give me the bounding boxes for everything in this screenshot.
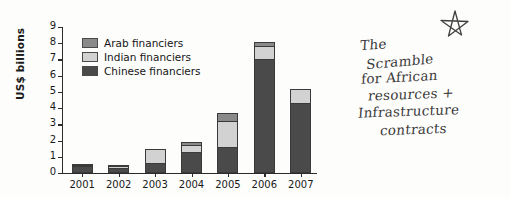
y-tick-mark — [58, 27, 62, 28]
y-axis-label: US$ billions — [14, 0, 26, 100]
legend-item[interactable]: Indian financiers — [82, 50, 201, 63]
chart-legend: Arab financiersIndian financiersChinese … — [82, 36, 201, 78]
y-tick-label: 6 — [50, 69, 56, 81]
x-tick-mark — [228, 173, 229, 177]
legend-swatch-icon — [82, 38, 98, 48]
x-tick-label: 2005 — [208, 179, 248, 190]
bar-segment — [72, 166, 93, 173]
x-tick-mark — [264, 173, 265, 177]
bar-segment — [254, 46, 275, 61]
legend-label: Chinese financiers — [104, 65, 201, 77]
y-tick-mark — [58, 59, 62, 60]
bar-segment — [290, 89, 311, 104]
legend-swatch-icon — [82, 52, 98, 62]
bar-segment — [145, 149, 166, 164]
legend-swatch-icon — [82, 66, 98, 76]
x-tick-label: 2002 — [99, 179, 139, 190]
bar-segment — [181, 152, 202, 173]
y-axis-line — [62, 27, 63, 173]
y-tick-mark — [58, 76, 62, 77]
bar-segment — [290, 103, 311, 173]
y-tick-mark — [58, 92, 62, 93]
bar-2005[interactable] — [217, 113, 238, 173]
bar-2002[interactable] — [108, 165, 129, 173]
y-tick-mark — [58, 108, 62, 109]
bar-2004[interactable] — [181, 142, 202, 173]
x-tick-label: 2007 — [281, 179, 321, 190]
y-tick-label: 7 — [50, 52, 56, 64]
legend-item[interactable]: Chinese financiers — [82, 64, 201, 77]
bar-segment — [217, 121, 238, 148]
x-tick-mark — [82, 173, 83, 177]
y-tick-mark — [58, 124, 62, 125]
y-tick-mark — [58, 43, 62, 44]
x-tick-label: 2006 — [244, 179, 284, 190]
screenshot-root: US$ billions 0123456789 2001200220032004… — [0, 0, 510, 197]
handwritten-annotation: TheScramblefor Africanresources +Infrast… — [352, 6, 510, 191]
legend-label: Indian financiers — [104, 51, 191, 63]
x-tick-mark — [192, 173, 193, 177]
bar-2003[interactable] — [145, 149, 166, 173]
x-axis-line — [62, 173, 317, 174]
x-tick-mark — [155, 173, 156, 177]
bar-2001[interactable] — [72, 164, 93, 173]
y-tick-label: 1 — [50, 150, 56, 162]
bar-2006[interactable] — [254, 42, 275, 173]
y-tick-mark — [58, 141, 62, 142]
x-tick-label: 2001 — [62, 179, 102, 190]
x-tick-label: 2003 — [135, 179, 175, 190]
bar-segment — [254, 59, 275, 173]
y-tick-label: 4 — [50, 101, 56, 113]
legend-item[interactable]: Arab financiers — [82, 36, 201, 49]
y-tick-mark — [58, 157, 62, 158]
annotation-text: TheScramblefor Africanresources +Infrast… — [358, 32, 508, 137]
x-tick-label: 2004 — [172, 179, 212, 190]
y-tick-label: 2 — [50, 134, 56, 146]
x-tick-mark — [119, 173, 120, 177]
y-tick-label: 3 — [50, 117, 56, 129]
x-tick-mark — [301, 173, 302, 177]
y-tick-label: 9 — [50, 20, 56, 32]
y-tick-mark — [58, 173, 62, 174]
y-tick-label: 0 — [50, 166, 56, 178]
bar-2007[interactable] — [290, 89, 311, 173]
bar-segment — [217, 147, 238, 173]
bar-chart: US$ billions 0123456789 2001200220032004… — [0, 0, 340, 197]
y-tick-label: 8 — [50, 36, 56, 48]
legend-label: Arab financiers — [104, 37, 183, 49]
bar-segment — [145, 163, 166, 173]
bar-segment — [108, 168, 129, 173]
y-tick-label: 5 — [50, 85, 56, 97]
